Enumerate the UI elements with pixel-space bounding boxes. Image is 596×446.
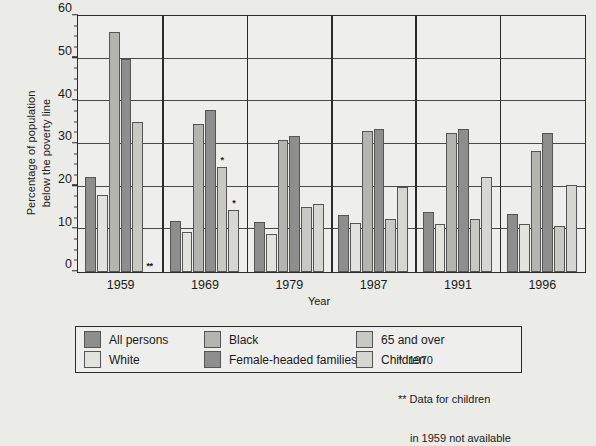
bar <box>182 232 193 272</box>
x-tick-label-1979: 1979 <box>275 278 303 292</box>
bar <box>446 133 457 272</box>
bars-layer: **** <box>78 16 585 272</box>
legend-swatch-icon <box>204 351 221 368</box>
bar <box>507 214 518 272</box>
y-axis-title: Percentage of population below the pover… <box>24 38 58 268</box>
x-tick-label-1959: 1959 <box>107 278 135 292</box>
bar <box>228 210 239 272</box>
x-axis-title: Year <box>0 295 596 307</box>
x-tick-label-1987: 1987 <box>360 278 388 292</box>
bar <box>542 133 553 272</box>
bar <box>481 177 492 272</box>
bar <box>97 195 108 272</box>
bar <box>266 234 277 272</box>
bar <box>85 177 96 272</box>
y-tick-label-20: 20 <box>58 172 72 186</box>
legend-swatch-icon <box>356 351 373 368</box>
legend-swatch-icon <box>356 331 373 348</box>
legend-swatch-icon <box>84 331 101 348</box>
y-axis-title-line-1: Percentage of population <box>24 38 39 268</box>
y-tick-label-0: 0 <box>65 257 72 271</box>
bar <box>374 129 385 272</box>
page-body-text-cutoff <box>30 388 330 397</box>
bar-missing-note: ** <box>144 262 155 271</box>
legend-entry-female-headed-families[interactable]: Female-headed families <box>204 351 357 368</box>
bar <box>109 32 120 272</box>
bar <box>278 140 289 272</box>
bar <box>362 131 373 272</box>
legend-label: Black <box>229 333 258 347</box>
plot-area: 0102030405060 **** <box>77 15 586 273</box>
legend-entry-all-persons[interactable]: All persons <box>84 331 168 348</box>
bar <box>338 215 349 272</box>
y-axis-title-line-2: below the poverty line <box>39 38 54 268</box>
legend-swatch-icon <box>204 331 221 348</box>
footnote-double-star-line-2: in 1959 not available <box>398 432 511 445</box>
y-tick-label-40: 40 <box>58 87 72 101</box>
bar <box>554 226 565 272</box>
bar <box>205 110 216 272</box>
x-tick-label-1996: 1996 <box>528 278 556 292</box>
bar <box>385 219 396 272</box>
bar <box>301 207 312 272</box>
bar <box>121 59 132 272</box>
x-tick-label-1991: 1991 <box>444 278 472 292</box>
legend-label: Female-headed families <box>229 353 357 367</box>
y-tick-label-10: 10 <box>58 215 72 229</box>
y-tick-label-30: 30 <box>58 129 72 143</box>
bar-note: * <box>217 156 228 165</box>
bar <box>254 222 265 272</box>
bar <box>170 221 181 272</box>
x-tick-label-1969: 1969 <box>191 278 219 292</box>
bar <box>193 124 204 272</box>
legend-label: White <box>109 353 140 367</box>
bar <box>458 129 469 272</box>
y-tick-label-50: 50 <box>58 44 72 58</box>
legend-entry-white[interactable]: White <box>84 351 140 368</box>
y-tick-label-60: 60 <box>58 1 72 15</box>
bar <box>470 219 481 272</box>
bar <box>566 185 577 272</box>
bar-note: * <box>228 199 239 208</box>
bar <box>397 187 408 272</box>
bar <box>350 223 361 272</box>
footnotes: * 1970 ** Data for children in 1959 not … <box>398 328 511 446</box>
bar <box>289 136 300 272</box>
bar <box>435 224 446 272</box>
bar <box>217 167 228 272</box>
legend-entry-black[interactable]: Black <box>204 331 258 348</box>
bar <box>132 122 143 272</box>
bar <box>531 151 542 272</box>
bar <box>519 224 530 272</box>
bar <box>313 204 324 272</box>
x-axis-title-text: Year <box>308 295 330 307</box>
bar <box>423 212 434 272</box>
footnote-single-star: * 1970 <box>398 354 511 367</box>
footnote-double-star-line-1: ** Data for children <box>398 393 511 406</box>
legend-label: All persons <box>109 333 168 347</box>
legend-swatch-icon <box>84 351 101 368</box>
